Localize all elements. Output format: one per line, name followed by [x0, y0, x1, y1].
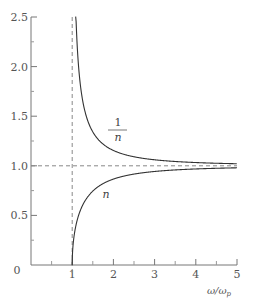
- axes: [31, 17, 237, 265]
- x-tick-label: 5: [234, 268, 241, 281]
- y-tick-label: 2.5: [11, 11, 29, 24]
- x-tick-label: 2: [110, 268, 117, 281]
- x-ticks: 12345: [52, 259, 241, 281]
- x-axis-title-main: ω/ω: [207, 285, 227, 296]
- curve-one-over-n: [75, 17, 237, 164]
- y-ticks: 0.51.01.52.02.5: [11, 11, 38, 240]
- label-one-over-n-denominator: n: [114, 131, 121, 144]
- x-tick-label: 3: [151, 268, 158, 281]
- origin-label: 0: [14, 264, 21, 277]
- chart: 0.51.01.52.02.5 12345 1 n n 0 ω/ωp: [0, 0, 256, 304]
- curves: [72, 17, 237, 265]
- y-tick-label: 2.0: [11, 61, 29, 74]
- x-axis-title: ω/ωp: [207, 285, 232, 298]
- y-tick-label: 1.5: [11, 110, 29, 123]
- reference-lines: [31, 17, 237, 273]
- label-n: n: [102, 188, 109, 201]
- x-tick-label: 4: [192, 268, 199, 281]
- x-axis-title-sub: p: [227, 290, 232, 298]
- y-tick-label: 1.0: [11, 160, 29, 173]
- curve-n: [72, 168, 237, 265]
- y-tick-label: 0.5: [11, 209, 29, 222]
- label-one-over-n: 1 n: [108, 116, 127, 144]
- label-one-over-n-numerator: 1: [115, 116, 122, 129]
